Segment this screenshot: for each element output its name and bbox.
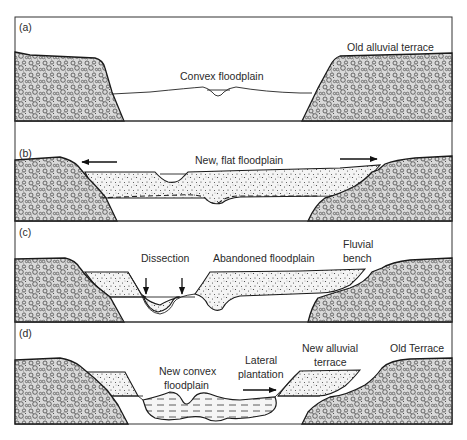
old-alluvial-terrace-label: Old alluvial terrace [347, 41, 434, 53]
panel-a: (a) Convex floodplain Old alluvial terra… [15, 17, 452, 121]
dissected-channel-fill [143, 296, 180, 312]
panel-a-label: (a) [19, 21, 32, 33]
convex-floodplain-surface [112, 87, 312, 96]
left-bedrock [15, 52, 124, 121]
convex-floodplain-label: Convex floodplain [180, 70, 264, 82]
channel-edge-left [138, 396, 143, 400]
panel-b: (b) New, flat floodplain [15, 121, 452, 221]
lateral-plantation-label-line2: plantation [238, 368, 284, 380]
panel-b-label: (b) [19, 147, 32, 159]
new-convex-floodplain-deposits [143, 392, 276, 421]
lateral-plantation-label-line1: Lateral [245, 354, 277, 366]
new-alluvial-terrace-label-line1: New alluvial [302, 342, 358, 354]
fluvial-bench-label-line1: Fluvial [343, 238, 373, 250]
dissection-label: Dissection [141, 252, 190, 264]
new-alluvial-terrace-right [278, 370, 360, 396]
panel-d-label: (d) [19, 327, 32, 339]
new-convex-floodplain-label-line2: floodplain [164, 379, 209, 391]
panel-c-label: (c) [19, 226, 31, 238]
new-convex-floodplain-label-line1: New convex [159, 365, 217, 377]
abandoned-floodplain-label: Abandoned floodplain [213, 252, 315, 264]
panel-d: (d) New convex floodplain Lateral planta… [15, 322, 452, 424]
floodplain-evolution-diagram: (a) Convex floodplain Old alluvial terra… [0, 0, 467, 440]
old-terrace-label: Old Terrace [390, 342, 444, 354]
new-flat-floodplain-label: New, flat floodplain [195, 154, 283, 166]
panel-c: (c) Dissection Abandoned floodplain Fluv… [15, 221, 452, 322]
new-alluvial-terrace-label-line2: terrace [314, 356, 347, 368]
right-old-alluvial-terrace [302, 53, 452, 121]
fluvial-bench-label-line2: bench [343, 252, 372, 264]
